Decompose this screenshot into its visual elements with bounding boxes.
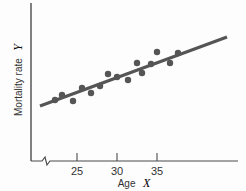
x-tick-label-30: 30 [111, 165, 123, 177]
data-point [125, 77, 131, 83]
x-axis [31, 157, 238, 165]
x-tick-label-25: 25 [71, 165, 83, 177]
data-point [114, 74, 120, 80]
data-point [139, 70, 145, 76]
data-point [148, 61, 154, 67]
y-axis-label: Mortality rate Y [8, 43, 25, 116]
data-point [52, 97, 58, 103]
y-axis-label-text: Mortality rate [13, 58, 24, 116]
data-point [59, 92, 65, 98]
x-axis-label-text: Age [118, 178, 136, 189]
data-point [79, 85, 85, 91]
data-point [97, 83, 103, 89]
data-point [154, 49, 160, 55]
y-axis-var: Y [11, 43, 25, 51]
data-point [105, 71, 111, 77]
scatter-chart: 25 30 35 Age X Mortality rate Y [0, 0, 246, 191]
data-point [70, 98, 76, 104]
data-point [134, 60, 140, 66]
x-axis-var: X [142, 176, 151, 190]
data-point [88, 90, 94, 96]
regression-line [40, 37, 227, 106]
x-tick-label-35: 35 [151, 165, 163, 177]
data-point [167, 60, 173, 66]
data-point [175, 50, 181, 56]
